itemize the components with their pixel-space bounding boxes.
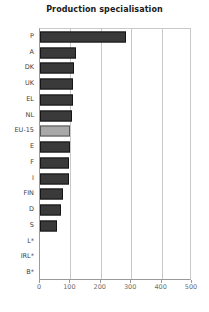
bar-a[interactable]: [40, 47, 76, 58]
x-tick-label-100: 100: [63, 283, 75, 291]
category-label-i: I: [0, 170, 37, 186]
bar-row: [40, 92, 190, 108]
bar-i[interactable]: [40, 173, 69, 184]
bar-p[interactable]: [40, 31, 126, 42]
value-axis-labels: 0100200300400500: [0, 283, 209, 297]
bar-rows: [40, 29, 190, 279]
bar-row: [40, 202, 190, 218]
bar-e[interactable]: [40, 142, 70, 153]
x-tick-mark-0: [39, 280, 40, 283]
bar-eu-15[interactable]: [40, 126, 70, 137]
bar-uk[interactable]: [40, 79, 73, 90]
bar-row: [40, 218, 190, 234]
category-label-f: F: [0, 154, 37, 170]
x-tick-mark-300: [130, 280, 131, 283]
x-tick-label-200: 200: [94, 283, 106, 291]
chart-container: Production specialisation PADKUKELNLEU-1…: [0, 0, 209, 312]
x-tick-label-300: 300: [124, 283, 136, 291]
bar-row: [40, 139, 190, 155]
category-label-nl: NL: [0, 107, 37, 123]
bar-d[interactable]: [40, 205, 61, 216]
category-label-bstar: B*: [0, 264, 37, 280]
bar-row: [40, 187, 190, 203]
bar-row: [40, 155, 190, 171]
bar-row: [40, 76, 190, 92]
bar-row: [40, 124, 190, 140]
category-axis-labels: PADKUKELNLEU-15EFIFINDSL*IRL*B*: [0, 28, 37, 280]
category-label-a: A: [0, 44, 37, 60]
bar-f[interactable]: [40, 157, 69, 168]
bar-row: [40, 265, 190, 281]
bar-row: [40, 61, 190, 77]
bar-fin[interactable]: [40, 189, 63, 200]
category-label-uk: UK: [0, 75, 37, 91]
x-tick-label-400: 400: [154, 283, 166, 291]
category-label-eu-15: EU-15: [0, 123, 37, 139]
bar-dk[interactable]: [40, 63, 74, 74]
x-tick-label-500: 500: [185, 283, 197, 291]
category-label-irlstar: IRL*: [0, 249, 37, 265]
bar-nl[interactable]: [40, 110, 72, 121]
bar-el[interactable]: [40, 94, 73, 105]
chart-title: Production specialisation: [0, 5, 209, 14]
bar-row: [40, 234, 190, 250]
bar-row: [40, 108, 190, 124]
category-label-fin: FIN: [0, 186, 37, 202]
bar-row: [40, 250, 190, 266]
x-tick-mark-100: [69, 280, 70, 283]
x-tick-mark-500: [191, 280, 192, 283]
plot-area: [39, 28, 191, 280]
x-tick-mark-200: [100, 280, 101, 283]
bar-row: [40, 45, 190, 61]
bar-row: [40, 171, 190, 187]
category-label-d: D: [0, 201, 37, 217]
category-label-dk: DK: [0, 60, 37, 76]
category-label-p: P: [0, 28, 37, 44]
x-tick-mark-400: [161, 280, 162, 283]
bar-s[interactable]: [40, 220, 57, 231]
category-label-el: EL: [0, 91, 37, 107]
category-label-s: S: [0, 217, 37, 233]
x-tick-label-0: 0: [37, 283, 41, 291]
category-label-lstar: L*: [0, 233, 37, 249]
category-label-e: E: [0, 138, 37, 154]
bar-row: [40, 29, 190, 45]
